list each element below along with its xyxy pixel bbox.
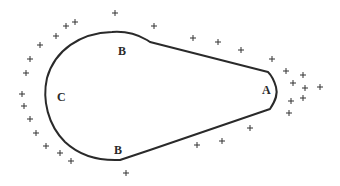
charged-conductor-diagram — [0, 0, 340, 186]
plus-charge-icon — [283, 68, 289, 74]
plus-charge-icon — [317, 84, 323, 90]
plus-charge-icon — [300, 95, 306, 101]
plus-charge-icon — [290, 80, 296, 86]
label-b-bottom: B — [114, 144, 122, 156]
plus-charge-icon — [215, 39, 221, 45]
plus-charge-icon — [43, 143, 49, 149]
plus-charge-icon — [72, 19, 78, 25]
plus-charge-icon — [190, 35, 196, 41]
plus-charge-icon — [194, 142, 200, 148]
plus-charge-icon — [27, 116, 33, 122]
plus-charge-icon — [123, 170, 129, 176]
conductor-outline — [45, 32, 276, 160]
plus-charge-icon — [33, 130, 39, 136]
plus-charge-icon — [53, 33, 59, 39]
plus-charge-icon — [238, 47, 244, 53]
plus-charge-icon — [57, 150, 63, 156]
plus-charge-icon — [269, 56, 275, 62]
plus-charge-icon — [112, 10, 118, 16]
plus-charge-icon — [219, 138, 225, 144]
plus-charge-icon — [21, 103, 27, 109]
label-c: C — [57, 91, 66, 103]
plus-charge-icon — [63, 23, 69, 29]
label-b-top: B — [118, 45, 126, 57]
plus-charge-icon — [300, 72, 306, 78]
plus-charge-icon — [68, 158, 74, 164]
plus-charge-icon — [288, 98, 294, 104]
plus-charge-icon — [247, 125, 253, 131]
plus-charge-icon — [27, 56, 33, 62]
plus-charge-icon — [19, 91, 25, 97]
label-a: A — [262, 84, 271, 96]
plus-charge-icon — [151, 23, 157, 29]
plus-charge-icon — [37, 42, 43, 48]
plus-charge-icon — [302, 85, 308, 91]
plus-charge-icon — [23, 70, 29, 76]
plus-charge-icon — [286, 110, 292, 116]
